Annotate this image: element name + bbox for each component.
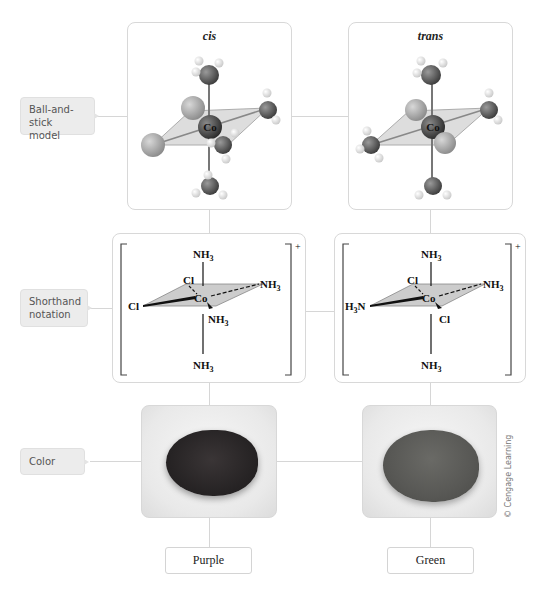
shorthand-trans-card: + NH3 Cl NH3 Co H3N Cl NH3 [334, 233, 526, 383]
svg-text:Co: Co [203, 121, 217, 133]
connector-line [306, 311, 334, 312]
ball-and-stick-model-cis: Co [128, 23, 293, 211]
powder-pile-trans [383, 430, 479, 502]
svg-text:Co: Co [426, 121, 440, 133]
shorthand-cis-card: + NH3 Cl NH3 Co Cl NH3 NH3 [112, 233, 306, 383]
connector-line [430, 383, 431, 405]
connector-line [292, 116, 348, 117]
powder-photo-cis [141, 405, 277, 518]
row-label-text: Color [29, 456, 55, 467]
ligand-back-left: Cl [407, 274, 418, 286]
color-label-trans: Green [387, 547, 474, 574]
ligand-front-right: NH3 [208, 313, 229, 328]
ligand-front-left: Cl [128, 300, 139, 312]
ball-and-stick-trans-card: trans Co [348, 22, 513, 210]
ball-and-stick-cis-card: cis Co [127, 22, 292, 210]
row-label-ball-and-stick: Ball-and-stick model [20, 97, 95, 135]
connector-line [209, 518, 210, 547]
ligand-bottom: NH3 [193, 359, 214, 374]
center-atom: Co [422, 292, 436, 304]
ligand-front-left: H3N [345, 300, 366, 315]
center-atom: Co [194, 292, 208, 304]
ligand-front-right: Cl [439, 313, 450, 325]
connector-line [277, 461, 362, 462]
ligand-top: NH3 [421, 248, 442, 263]
ball-and-stick-model-trans: Co [349, 23, 514, 211]
connector-line [90, 308, 112, 309]
connector-line [430, 210, 431, 233]
connector-line [209, 383, 210, 405]
row-label-text: Ball-and-stick model [29, 104, 74, 141]
connector-line [209, 210, 210, 233]
shorthand-structure-trans: + NH3 Cl NH3 Co H3N Cl NH3 [335, 234, 527, 384]
row-label-text: Shorthand notation [29, 296, 81, 320]
row-label-shorthand: Shorthand notation [20, 289, 88, 327]
connector-line [90, 461, 141, 462]
ligand-back-left: Cl [183, 274, 194, 286]
ligand-bottom: NH3 [421, 359, 442, 374]
ligand-back-right: NH3 [483, 278, 504, 293]
color-label-cis: Purple [165, 547, 252, 574]
copyright-credit: © Cengage Learning [504, 435, 513, 518]
connector-line [430, 518, 431, 547]
powder-photo-trans [362, 405, 497, 518]
shorthand-structure-cis: + NH3 Cl NH3 Co Cl NH3 NH3 [113, 234, 307, 384]
charge-label: + [295, 241, 301, 252]
charge-label: + [515, 241, 521, 252]
powder-pile-cis [166, 430, 258, 496]
ligand-top: NH3 [193, 248, 214, 263]
row-label-color: Color [20, 448, 85, 475]
ligand-back-right: NH3 [260, 278, 281, 293]
